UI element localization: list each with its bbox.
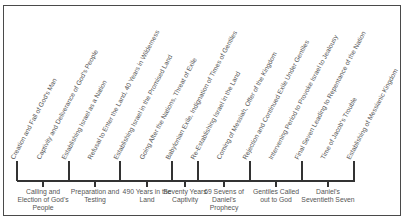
minor-tick [275,181,277,187]
minor-tick [184,181,186,187]
minor-tick [223,181,225,187]
minor-tick [327,181,329,187]
major-tick [16,161,18,181]
major-tick [171,161,173,181]
minor-tick [42,181,44,187]
period-label: Calling and Election of God's People [16,188,70,212]
major-tick [353,161,355,181]
major-tick [301,161,303,181]
period-label: Gentiles Called out to God [249,188,303,204]
minor-tick [94,181,96,187]
major-tick [68,161,70,181]
major-tick [119,161,121,181]
period-label: Preparation and Testing [68,188,122,204]
major-tick [249,161,251,181]
major-tick [197,161,199,181]
period-label: 69 Sevens of Daniel's Prophecy [197,188,251,212]
period-label: Daniel's Seventieth Seven [301,188,355,204]
minor-tick [146,181,148,187]
